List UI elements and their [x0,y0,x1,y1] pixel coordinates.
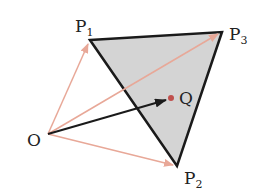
label-p1: P1 [75,16,93,39]
label-p3: P3 [229,24,247,47]
triangle-p1-p2-p3 [90,32,222,166]
diagram-canvas: P1 P3 P2 O Q [0,0,265,191]
label-o: O [27,130,41,150]
label-p2: P2 [184,168,202,191]
point-q-dot [168,95,174,101]
label-q: Q [179,88,193,108]
vector-o-p1 [48,44,88,134]
vector-o-p2 [48,134,173,165]
